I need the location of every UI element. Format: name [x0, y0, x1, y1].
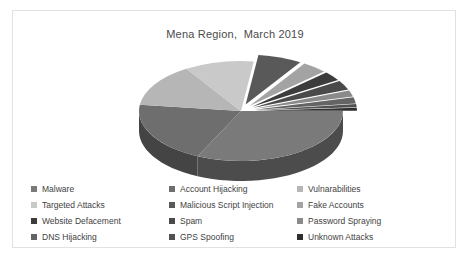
legend-item[interactable]: Malicious Script Injection	[169, 197, 297, 213]
legend-item[interactable]: Password Spraying	[297, 213, 417, 229]
legend-item-label: GPS Spoofing	[180, 232, 234, 242]
legend-swatch-icon	[297, 218, 303, 224]
legend-swatch-icon	[169, 202, 175, 208]
legend-item[interactable]: Website Defacement	[31, 213, 169, 229]
legend-swatch-icon	[31, 218, 37, 224]
legend-item-label: Malware	[42, 184, 74, 194]
legend-swatch-icon	[31, 202, 37, 208]
chart-title: Mena Region, March 2019	[13, 28, 457, 40]
legend-item-label: DNS Hijacking	[42, 232, 97, 242]
legend-swatch-icon	[297, 186, 303, 192]
chart-legend: MalwareAccount HijackingVulnarabilitiesT…	[31, 181, 441, 245]
legend-item-label: Password Spraying	[308, 216, 381, 226]
chart-card: Mena Region, March 2019 MalwareAccount H…	[12, 10, 456, 248]
legend-item[interactable]: Spam	[169, 213, 297, 229]
legend-swatch-icon	[31, 186, 37, 192]
legend-swatch-icon	[169, 186, 175, 192]
legend-item-label: Spam	[180, 216, 202, 226]
legend-swatch-icon	[297, 234, 303, 240]
legend-swatch-icon	[169, 218, 175, 224]
legend-swatch-icon	[169, 234, 175, 240]
legend-swatch-icon	[31, 234, 37, 240]
legend-item-label: Fake Accounts	[308, 200, 364, 210]
legend-item-label: Vulnarabilities	[308, 184, 361, 194]
legend-item-label: Unknown Attacks	[308, 232, 373, 242]
legend-swatch-icon	[297, 202, 303, 208]
legend-item[interactable]: DNS Hijacking	[31, 229, 169, 245]
legend-item-label: Account Hijacking	[180, 184, 248, 194]
legend-item-label: Targeted Attacks	[42, 200, 105, 210]
pie-chart	[113, 49, 363, 189]
pie-chart-svg	[113, 49, 363, 189]
legend-item[interactable]: Vulnarabilities	[297, 181, 417, 197]
legend-item[interactable]: Malware	[31, 181, 169, 197]
legend-item[interactable]: GPS Spoofing	[169, 229, 297, 245]
legend-item[interactable]: Fake Accounts	[297, 197, 417, 213]
legend-item[interactable]: Targeted Attacks	[31, 197, 169, 213]
legend-item-label: Malicious Script Injection	[180, 200, 274, 210]
legend-item[interactable]: Unknown Attacks	[297, 229, 417, 245]
legend-item-label: Website Defacement	[42, 216, 121, 226]
legend-item[interactable]: Account Hijacking	[169, 181, 297, 197]
